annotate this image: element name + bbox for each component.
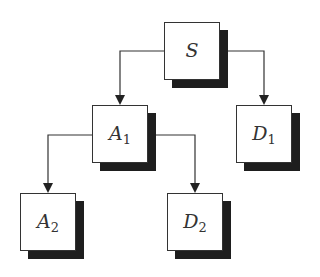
node-box: D1 <box>236 105 292 163</box>
node-d1: D1 <box>236 105 292 163</box>
node-box: D2 <box>167 193 223 251</box>
node-box: A2 <box>20 193 76 251</box>
edge-a1-d2 <box>156 135 195 185</box>
edge-s-a1 <box>120 51 164 97</box>
node-d2: D2 <box>167 193 223 251</box>
node-label: A1 <box>109 122 131 147</box>
node-label: D2 <box>183 210 207 235</box>
node-a2: A2 <box>20 193 76 251</box>
arrowhead-icon <box>259 95 269 105</box>
node-label: S <box>185 39 198 64</box>
node-label: A2 <box>37 210 59 235</box>
edge-a1-a2 <box>48 135 92 185</box>
node-a1: A1 <box>92 105 148 163</box>
node-box: A1 <box>92 105 148 163</box>
arrowhead-icon <box>190 183 200 193</box>
edge-s-d1 <box>228 51 264 97</box>
arrowhead-icon <box>43 183 53 193</box>
arrowhead-icon <box>115 95 125 105</box>
node-s: S <box>164 22 220 80</box>
node-box: S <box>164 22 220 80</box>
node-label: D1 <box>252 122 276 147</box>
